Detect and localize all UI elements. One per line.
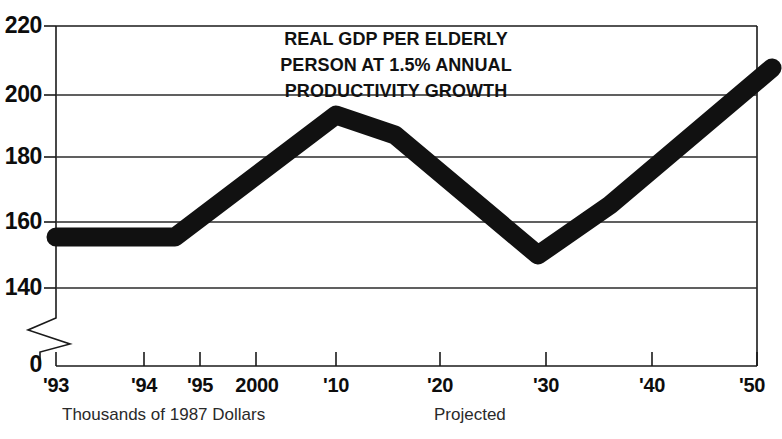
- gridlines-horizontal: [56, 95, 757, 288]
- axis-units-caption: Thousands of 1987 Dollars: [62, 405, 265, 425]
- y-axis-with-break: [28, 26, 70, 366]
- projected-caption: Projected: [434, 405, 506, 425]
- x-tick-label-2000: 2000: [222, 374, 292, 397]
- x-tick-label-95: '95: [170, 374, 230, 397]
- x-tick-label-50: '50: [722, 374, 782, 397]
- y-tick-label-220: 220: [0, 12, 42, 39]
- x-tick-label-94: '94: [114, 374, 174, 397]
- x-tick-label-20: '20: [410, 374, 470, 397]
- x-tick-label-10: '10: [306, 374, 366, 397]
- y-tick-label-200: 200: [0, 81, 42, 108]
- x-tick-label-93: '93: [26, 374, 86, 397]
- chart-title-line-2: PERSON AT 1.5% ANNUAL: [236, 52, 556, 78]
- y-tick-label-160: 160: [0, 208, 42, 235]
- y-tick-label-140: 140: [0, 274, 42, 301]
- chart-title: REAL GDP PER ELDERLY PERSON AT 1.5% ANNU…: [236, 26, 556, 104]
- chart-figure: REAL GDP PER ELDERLY PERSON AT 1.5% ANNU…: [0, 0, 782, 439]
- x-tick-label-40: '40: [622, 374, 682, 397]
- x-tick-label-30: '30: [516, 374, 576, 397]
- y-tick-label-180: 180: [0, 143, 42, 170]
- y-tick-marks: [44, 26, 56, 288]
- x-tick-marks: [56, 352, 757, 366]
- chart-title-line-1: REAL GDP PER ELDERLY: [236, 26, 556, 52]
- chart-title-line-3: PRODUCTIVITY GROWTH: [236, 78, 556, 104]
